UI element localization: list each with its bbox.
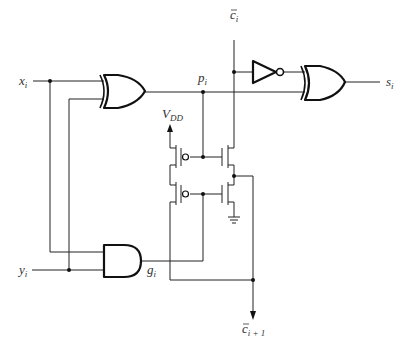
label-x: xi xyxy=(18,73,28,90)
pmos-transistor-1 xyxy=(176,145,189,168)
label-y: yi xyxy=(17,262,28,279)
svg-text:ci: ci xyxy=(230,7,239,24)
wire-g xyxy=(141,194,203,261)
junctions xyxy=(48,70,255,282)
vdd-arrow-icon xyxy=(167,124,173,132)
wire-vdd xyxy=(170,131,176,148)
wire-nmos-gnd xyxy=(228,202,234,217)
wire-x-to-and xyxy=(50,81,104,252)
label-p: pi xyxy=(197,70,208,87)
label-s: si xyxy=(386,74,394,91)
xor-gate-1 xyxy=(100,75,145,108)
wire-c-out xyxy=(234,176,253,312)
wire-pmos-out xyxy=(170,202,253,280)
and-gate xyxy=(104,245,141,277)
xor-gate-2 xyxy=(301,66,345,100)
wire-pmos-mid xyxy=(170,165,176,185)
nmos-transistor-2 xyxy=(222,182,228,205)
label-c-out: ci + 1 xyxy=(242,321,265,338)
label-c-in: ci xyxy=(230,7,239,24)
label-vdd: VDD xyxy=(162,106,183,123)
inverter-gate xyxy=(253,61,284,83)
nmos-transistor-1 xyxy=(222,145,228,168)
output-arrow-icon xyxy=(250,311,256,320)
label-g: gi xyxy=(147,262,157,279)
svg-text:ci + 1: ci + 1 xyxy=(242,321,265,338)
ground-icon xyxy=(228,217,240,223)
circuit-diagram: xi yi ci pi gi si ci + 1 VDD xyxy=(0,0,408,354)
pmos-transistor-2 xyxy=(176,182,189,205)
wire-y-to-xor xyxy=(69,99,104,270)
